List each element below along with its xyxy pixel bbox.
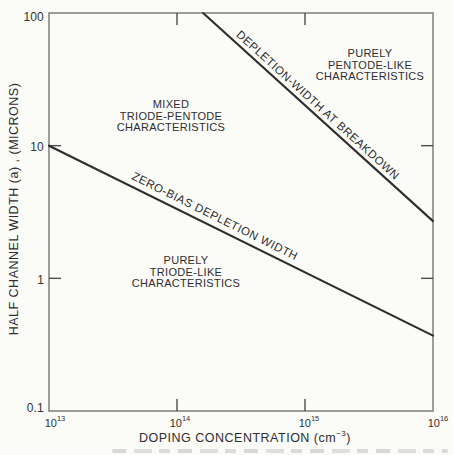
y-axis-title: HALF CHANNEL WIDTH (a) , (MICRONS)	[7, 83, 21, 336]
region-line: PURELY	[316, 48, 424, 60]
x-axis-title-close: )	[346, 431, 351, 445]
cropped-caption-remnant	[112, 449, 448, 453]
x-tick-base: 10	[45, 417, 57, 429]
x-tick-label-1e14: 1014	[170, 415, 191, 429]
x-axis-title: DOPING CONCENTRATION (cm−3)	[139, 430, 351, 445]
series-line-zero-bias-depletion-width	[49, 146, 433, 336]
x-tick-label-1e16: 1016	[428, 415, 449, 429]
x-tick-exponent: 13	[57, 414, 65, 423]
region-label-purely-triode: PURELY TRIODE-LIKE CHARACTERISTICS	[132, 255, 240, 290]
y-tick-label-10: 10	[30, 140, 44, 154]
x-tick-base: 10	[170, 417, 182, 429]
region-line: CHARACTERISTICS	[117, 122, 225, 134]
figure-page: 100 10 1 0.1 1013 1014 1015 1016 DOPING …	[0, 0, 453, 455]
x-tick-exponent: 16	[440, 414, 448, 423]
region-label-mixed-triode-pentode: MIXED TRIODE-PENTODE CHARACTERISTICS	[117, 99, 225, 134]
x-axis-title-exponent: −3	[336, 429, 346, 438]
region-line: MIXED	[117, 99, 225, 111]
x-tick-exponent: 14	[182, 414, 190, 423]
region-line: CHARACTERISTICS	[132, 278, 240, 290]
x-tick-exponent: 15	[311, 414, 319, 423]
x-tick-base: 10	[299, 417, 311, 429]
x-tick-base: 10	[428, 417, 440, 429]
region-label-purely-pentode: PURELY PENTODE-LIKE CHARACTERISTICS	[316, 48, 424, 83]
y-tick-label-100: 100	[23, 10, 44, 24]
x-tick-label-1e13: 1013	[45, 415, 66, 429]
series-line-breakdown-depletion-width	[203, 13, 433, 221]
y-tick-label-0p1: 0.1	[27, 401, 44, 415]
y-tick-label-1: 1	[37, 273, 44, 287]
x-axis-title-text: DOPING CONCENTRATION (cm	[139, 431, 336, 445]
region-line: PURELY	[132, 255, 240, 267]
x-tick-label-1e15: 1015	[299, 415, 320, 429]
region-line: CHARACTERISTICS	[316, 71, 424, 83]
